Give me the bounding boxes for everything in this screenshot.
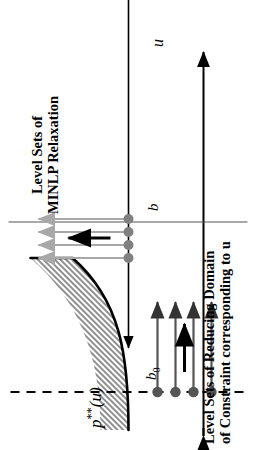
axis-label-p-argument: (u): [86, 387, 105, 407]
relaxation-band: [30, 258, 128, 430]
caption-reducing-domain-line1: Level Sets of Reducing Domain: [200, 251, 216, 444]
figure-stage: Level Sets of Reducing Domain of Constra…: [0, 0, 257, 450]
caption-reducing-domain-line2: of Constraint corresponding to u: [216, 241, 232, 444]
tick-label-b0-base: b: [142, 373, 158, 381]
minlp-level-sets: [38, 214, 133, 263]
axis-label-u: u: [148, 39, 166, 47]
axis-label-p-base: p: [86, 420, 105, 429]
tick-label-b: b: [144, 204, 161, 212]
tick-label-b0-subscript: 0: [150, 367, 161, 372]
caption-minlp-relaxation-line1: Level Sets of: [28, 116, 44, 194]
axis-label-p-superscript: **: [83, 407, 97, 419]
caption-reducing-domain: Level Sets of Reducing Domain of Constra…: [200, 241, 232, 444]
tick-label-b0: b0: [142, 367, 161, 380]
caption-minlp-relaxation: Level Sets of MINLP Relaxation: [28, 96, 60, 214]
caption-minlp-relaxation-line2: MINLP Relaxation: [44, 96, 60, 214]
axis-label-p-star-star: p**(u): [84, 387, 105, 428]
